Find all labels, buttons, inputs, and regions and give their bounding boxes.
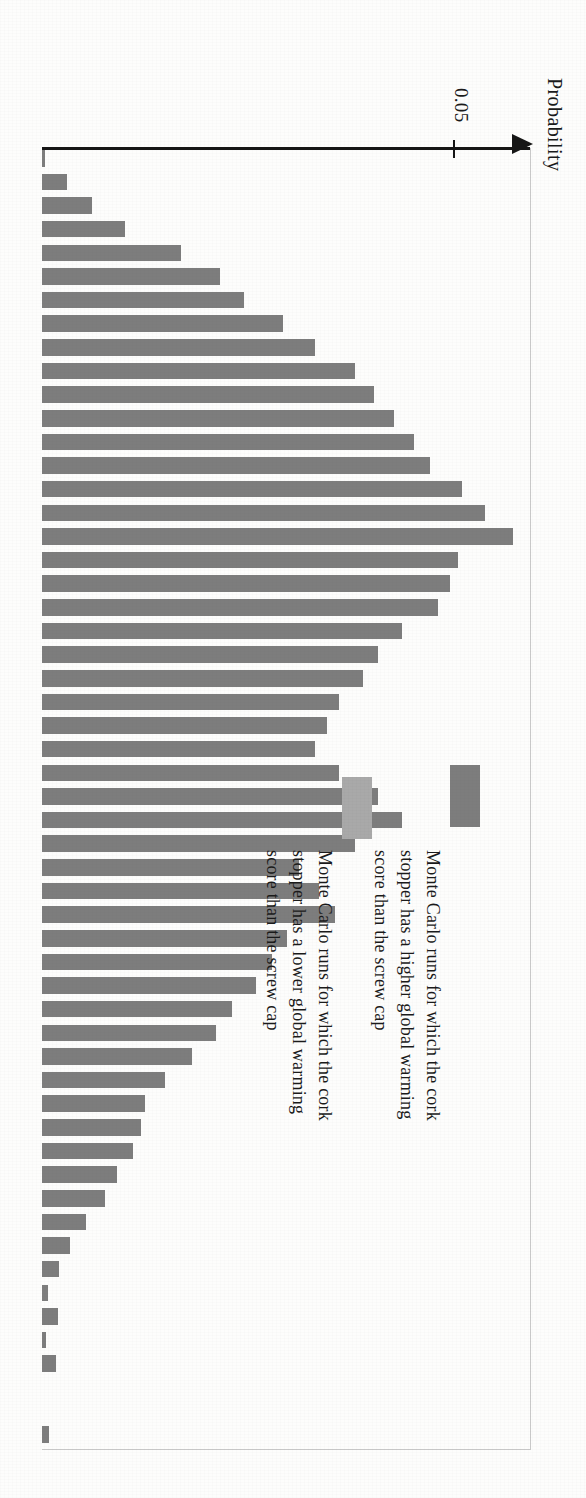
bar-row [42,1285,48,1302]
bar-row [42,1237,70,1254]
probability-bar-chart: 0.05 Probability Monte Carlo runs for wh… [0,0,586,1498]
bar [42,1285,48,1302]
bar-row [42,1355,56,1372]
bar-row [42,575,450,592]
bar [42,1261,59,1278]
bar-row [42,481,462,498]
bar [42,1426,49,1443]
bar-row [42,292,244,309]
bar-row [42,1166,117,1183]
bar [42,505,485,522]
bar-row [42,339,315,356]
bar [42,1001,232,1018]
bar-row [42,1001,232,1018]
bar-row [42,1190,105,1207]
bar [42,386,374,403]
bar [42,1143,133,1160]
chart-legend: Monte Carlo runs for which the cork stop… [300,735,540,1295]
bar-row [42,1261,59,1278]
bar-row [42,765,339,782]
bar-row [42,1048,192,1065]
bar [42,930,287,947]
bar-row [42,1143,133,1160]
bar-row [42,150,45,167]
bar [42,977,256,994]
bar [42,457,430,474]
bar [42,268,220,285]
bar-row [42,457,430,474]
bar-row [42,410,394,427]
bar [42,741,315,758]
bar [42,434,414,451]
bar-row [42,552,458,569]
bar [42,623,402,640]
bar-row [42,1119,141,1136]
bar-row [42,694,339,711]
bar-row [42,623,402,640]
bar [42,1025,216,1042]
bar [42,1355,56,1372]
bar-row [42,1025,216,1042]
bar-row [42,599,438,616]
bar [42,481,462,498]
bar [42,717,327,734]
bar [42,221,125,238]
bar [42,528,513,545]
bar [42,150,45,167]
bar-row [42,221,125,238]
bar [42,1119,141,1136]
bar-row [42,646,378,663]
bar [42,1166,117,1183]
bar-row [42,670,363,687]
bar [42,694,339,711]
bar [42,339,315,356]
bar [42,197,92,214]
bar [42,315,283,332]
bar-row [42,197,92,214]
bar [42,1308,58,1325]
bar [42,575,450,592]
bar [42,670,363,687]
bar-row [42,954,272,971]
bar-row [42,717,327,734]
bar-row [42,1072,165,1089]
axis-title: Probability [543,78,566,171]
bar-row [42,268,220,285]
bar [42,954,272,971]
bar [42,1095,145,1112]
bar [42,552,458,569]
legend-label-higher: Monte Carlo runs for which the cork stop… [368,850,446,1121]
bar-row [42,505,485,522]
bar [42,410,394,427]
axis-tick-label: 0.05 [450,88,472,122]
bar-row [42,315,283,332]
bar-row [42,1214,86,1231]
bar-row [42,434,414,451]
bar [42,1237,70,1254]
bar-row [42,1308,58,1325]
bar-row [42,977,256,994]
bar [42,1072,165,1089]
bar [42,765,339,782]
bar [42,1214,86,1231]
bar [42,174,67,191]
bar [42,646,378,663]
bar-row [42,1426,49,1443]
legend-swatch-higher [450,765,480,827]
bar-row [42,174,67,191]
bar-row [42,363,355,380]
bar [42,1332,46,1349]
legend-swatch-lower [342,777,372,839]
bar-row [42,741,315,758]
bar [42,1048,192,1065]
bar-row [42,528,513,545]
bar-row [42,1332,46,1349]
bar [42,363,355,380]
bar-row [42,386,374,403]
bar-row [42,930,287,947]
legend-label-lower: Monte Carlo runs for which the cork stop… [260,850,338,1121]
bar [42,292,244,309]
bar-row [42,1095,145,1112]
scanned-figure-page: 0.05 Probability Monte Carlo runs for wh… [0,0,586,1498]
bar [42,245,181,262]
